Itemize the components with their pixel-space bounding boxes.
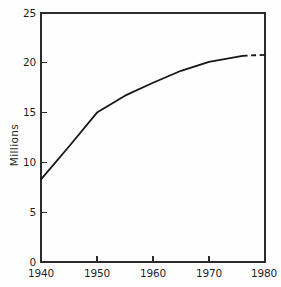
x-tick-label-1960: 1960 xyxy=(140,267,166,279)
chart-canvas: 0 5 10 15 20 25 1940 1950 1960 1970 1980… xyxy=(0,0,281,287)
y-tick-label-5: 5 xyxy=(30,206,36,218)
x-tick-label-1940: 1940 xyxy=(28,267,54,279)
y-axis-title: Millions xyxy=(8,124,20,166)
data-line-dashed-projection xyxy=(243,55,265,56)
chart-background xyxy=(0,0,281,287)
x-tick-label-1980: 1980 xyxy=(251,267,277,279)
y-tick-label-20: 20 xyxy=(23,56,36,68)
y-tick-label-15: 15 xyxy=(23,106,36,118)
x-tick-label-1970: 1970 xyxy=(196,267,222,279)
line-chart: 0 5 10 15 20 25 1940 1950 1960 1970 1980… xyxy=(0,0,281,287)
x-tick-label-1950: 1950 xyxy=(84,267,110,279)
y-tick-label-10: 10 xyxy=(23,156,36,168)
y-tick-label-25: 25 xyxy=(23,7,36,19)
y-tick-label-0: 0 xyxy=(30,256,36,268)
